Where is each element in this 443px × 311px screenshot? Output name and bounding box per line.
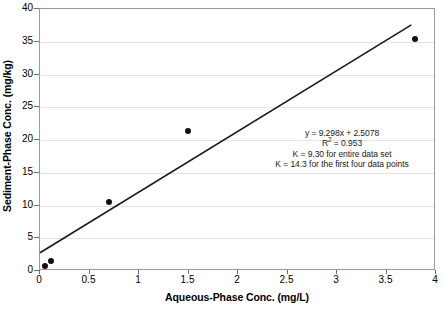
plot-area: y = 9.298x + 2.5078 R2 = 0.953 K = 9.30 … <box>39 8 435 270</box>
scatter-chart: Sediment-Phase Conc. (mg/kg) 05101520253… <box>0 0 443 311</box>
annotation-k-entire: K = 9.30 for entire data set <box>252 149 432 159</box>
x-axis-tick-label: 1.5 <box>173 274 203 286</box>
x-axis-tick-label: 0 <box>24 274 54 286</box>
x-axis-tick-label: 1 <box>123 274 153 286</box>
y-axis-tick-label: 10 <box>11 200 33 210</box>
y-axis-tick-label: 20 <box>11 134 33 144</box>
data-point <box>42 263 48 269</box>
y-axis-tick-label: 35 <box>11 36 33 46</box>
y-axis-tick-label: 15 <box>11 167 33 177</box>
data-point <box>106 199 112 205</box>
x-axis-tick-label: 4 <box>420 274 443 286</box>
x-axis-tick-label: 0.5 <box>74 274 104 286</box>
y-axis-tick-label: 30 <box>11 69 33 79</box>
annotation-k-first-four: K = 14.3 for the first four data points <box>252 159 432 169</box>
data-point <box>412 36 418 42</box>
annotation-equation: y = 9.298x + 2.5078 <box>252 128 432 138</box>
y-axis-tick-label: 40 <box>11 3 33 13</box>
regression-annotation: y = 9.298x + 2.5078 R2 = 0.953 K = 9.30 … <box>252 128 432 170</box>
x-axis-tick-label: 2 <box>222 274 252 286</box>
data-point <box>185 128 191 134</box>
r-squared-value: = 0.953 <box>332 138 363 148</box>
y-axis-tick-labels: 0510152025303540 <box>11 0 33 272</box>
x-axis-title: Aqueous-Phase Conc. (mg/L) <box>39 291 435 303</box>
annotation-r-squared: R2 = 0.953 <box>252 138 432 148</box>
x-axis-tick-label: 3.5 <box>371 274 401 286</box>
y-axis-tick-label: 5 <box>11 232 33 242</box>
y-axis-tick-label: 25 <box>11 101 33 111</box>
x-axis-tick-label: 3 <box>321 274 351 286</box>
x-axis-tick-labels: 00.511.522.533.54 <box>0 274 443 288</box>
x-axis-tick-label: 2.5 <box>272 274 302 286</box>
data-point <box>48 258 54 264</box>
